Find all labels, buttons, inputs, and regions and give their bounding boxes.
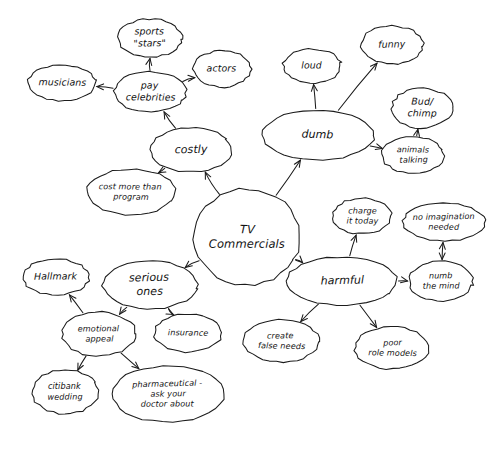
- node-label: cost more than: [99, 181, 162, 191]
- node-label: TV: [240, 222, 256, 236]
- node-label: funny: [378, 38, 406, 50]
- arrow-head: [185, 261, 192, 267]
- node-tv-commercials[interactable]: TVCommercials: [193, 188, 299, 285]
- node-label: talking: [399, 154, 428, 165]
- concept-map-diagram: TVCommercialscostlydumbseriousonesharmfu…: [0, 0, 493, 452]
- node-sports-stars[interactable]: sports"stars": [118, 19, 183, 57]
- arrow-head: [401, 277, 408, 283]
- edge-pay-celebrities-to-musicians: [97, 84, 113, 90]
- node-hallmark[interactable]: Hallmark: [23, 259, 89, 295]
- node-label: doctor about: [141, 398, 195, 408]
- node-label: sports: [134, 26, 164, 37]
- edge-tv-commercials-to-costly: [205, 172, 219, 194]
- node-label: serious: [129, 271, 170, 285]
- node-label: costly: [175, 143, 209, 156]
- node-label: harmful: [320, 274, 364, 288]
- node-label: dumb: [301, 128, 333, 142]
- node-label: numb: [429, 270, 453, 280]
- node-dumb[interactable]: dumb: [262, 111, 374, 161]
- edge-dumb-to-funny: [338, 63, 377, 110]
- node-label: emotional: [78, 323, 120, 333]
- edge-harmful-to-create-false-needs: [301, 304, 319, 321]
- edge-dumb-to-loud: [311, 85, 317, 109]
- node-label: citibank: [48, 381, 81, 391]
- node-label: ask your: [150, 388, 186, 399]
- edge-line: [338, 63, 377, 110]
- node-label: poor: [382, 337, 403, 348]
- node-citibank-wedding[interactable]: citibankwedding: [32, 370, 99, 414]
- node-label: wedding: [47, 391, 82, 401]
- node-layer: TVCommercialscostlydumbseriousonesharmfu…: [23, 19, 486, 422]
- node-label: loud: [301, 59, 322, 70]
- node-loud[interactable]: loud: [282, 48, 342, 83]
- edge-line: [301, 304, 319, 321]
- arrow-head: [294, 160, 300, 167]
- arrow-head: [159, 167, 166, 173]
- node-label: needed: [428, 221, 460, 231]
- edge-line: [70, 295, 83, 313]
- node-label: the mind: [423, 280, 461, 290]
- node-charge-it-today[interactable]: chargeit today: [333, 198, 393, 234]
- node-serious-ones[interactable]: seriousones: [102, 261, 199, 309]
- edge-pay-celebrities-to-sports-stars: [146, 59, 152, 71]
- node-label: celebrities: [126, 91, 176, 102]
- edge-harmful-to-numb-the-mind: [399, 277, 408, 283]
- edge-harmful-to-poor-role-models: [360, 305, 377, 327]
- node-emotional-appeal[interactable]: emotionalappeal: [62, 311, 136, 356]
- node-no-imagination-needed[interactable]: no imaginationneeded: [402, 203, 486, 241]
- edge-pay-celebrities-to-actors: [183, 75, 195, 81]
- node-musicians[interactable]: musicians: [27, 65, 96, 101]
- edge-line: [164, 112, 175, 128]
- edge-line: [276, 160, 300, 195]
- node-label: program: [112, 191, 149, 202]
- edge-emotional-appeal-to-citibank-wedding: [78, 356, 86, 370]
- node-label: create: [267, 330, 294, 340]
- edge-serious-ones-to-insurance: [166, 309, 173, 315]
- edge-emotional-appeal-to-hallmark: [70, 295, 83, 313]
- edge-serious-ones-to-emotional-appeal: [120, 307, 127, 314]
- edge-animals-talking-to-bud-chimp: [414, 129, 420, 136]
- arrow-head: [146, 59, 152, 66]
- edge-dumb-to-animals-talking: [370, 144, 382, 150]
- node-label: musicians: [39, 76, 87, 88]
- node-poor-role-models[interactable]: poorrole models: [354, 326, 429, 369]
- node-funny[interactable]: funny: [360, 25, 424, 64]
- node-label: actors: [207, 62, 237, 73]
- arrow-head: [164, 112, 170, 119]
- node-create-false-needs[interactable]: createfalse needs: [243, 319, 320, 362]
- concept-map-canvas: TVCommercialscostlydumbseriousonesharmfu…: [0, 0, 493, 452]
- node-pay-celebrities[interactable]: paycelebrities: [113, 71, 187, 112]
- edge-harmful-to-charge-it-today: [350, 235, 357, 256]
- edge-line: [121, 353, 139, 368]
- node-label: "stars": [133, 37, 166, 48]
- node-label: Commercials: [209, 237, 285, 251]
- node-cost-more-than-program[interactable]: cost more thanprogram: [87, 169, 176, 215]
- edge-line: [360, 305, 377, 327]
- node-numb-the-mind[interactable]: numbthe mind: [409, 261, 473, 302]
- node-harmful[interactable]: harmful: [286, 257, 397, 305]
- node-label: animals: [397, 144, 430, 154]
- edge-costly-to-cost-more-than-program: [159, 167, 166, 173]
- node-label: ones: [136, 285, 163, 298]
- node-label: role models: [368, 347, 417, 358]
- node-label: Hallmark: [34, 270, 78, 281]
- node-label: false needs: [258, 340, 306, 351]
- node-label: chimp: [408, 107, 437, 118]
- edge-tv-commercials-to-serious-ones: [185, 261, 199, 268]
- node-pharmaceutical[interactable]: pharmaceutical -ask yourdoctor about: [112, 366, 224, 423]
- node-label: appeal: [85, 334, 114, 344]
- edge-numb-the-mind-to-no-imagination-needed: [439, 243, 445, 260]
- edge-tv-commercials-to-harmful: [296, 256, 303, 263]
- node-label: it today: [347, 215, 379, 225]
- node-label: no imagination: [413, 211, 475, 222]
- node-bud-chimp[interactable]: Bud/chimp: [391, 88, 453, 129]
- node-insurance[interactable]: insurance: [154, 314, 222, 352]
- node-actors[interactable]: actors: [192, 50, 252, 88]
- node-label: charge: [348, 205, 377, 215]
- node-label: insurance: [168, 327, 209, 338]
- node-costly[interactable]: costly: [150, 128, 232, 172]
- node-label: pay: [140, 80, 159, 91]
- node-animals-talking[interactable]: animalstalking: [382, 137, 445, 174]
- edge-line: [205, 172, 219, 194]
- edge-tv-commercials-to-dumb: [276, 160, 300, 195]
